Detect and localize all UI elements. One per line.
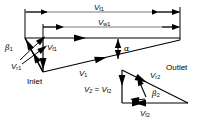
dimension-line-v-w1 bbox=[43, 24, 180, 30]
label-v-2-equals-v-f2: V₂ = Vf2 bbox=[84, 86, 111, 95]
angle-alpha-indicator bbox=[115, 39, 121, 59]
label-v-w1-top: Vw1 bbox=[98, 19, 110, 28]
label-v-r1: Vr1 bbox=[11, 63, 21, 72]
label-v-f1-inlet: Vf1 bbox=[47, 44, 57, 53]
label-v-r2: Vr2 bbox=[150, 72, 160, 81]
label-v-1: V1 bbox=[79, 70, 87, 79]
inlet-tangential-line bbox=[25, 35, 180, 42]
label-outlet: Outlet bbox=[166, 64, 187, 72]
label-v-f1-top: Vf1 bbox=[94, 4, 104, 13]
velocity-triangle-figure: Vf1 Vw1 β1 Vf1 Vr1 α V1 Inlet V₂ = Vf2 V… bbox=[0, 0, 204, 126]
label-v-f2: Vf2 bbox=[140, 110, 150, 119]
label-alpha: α bbox=[124, 45, 129, 53]
angle-beta-2-indicator bbox=[130, 75, 146, 103]
label-beta-1: β1 bbox=[5, 44, 13, 53]
label-inlet: Inlet bbox=[27, 78, 42, 86]
vector-v-r1 bbox=[20, 34, 49, 72]
label-beta-2: β2 bbox=[152, 90, 160, 99]
